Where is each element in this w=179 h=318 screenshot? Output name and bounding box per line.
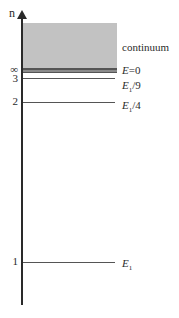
energy-value: /9 — [132, 79, 141, 91]
energy-label-n1: E1 — [122, 257, 132, 272]
energy-label-zero: E=0 — [122, 64, 140, 76]
energy-symbol: E — [122, 79, 129, 91]
level-label-n1: 1 — [4, 255, 18, 267]
energy-label-n3: E1/9 — [122, 79, 141, 94]
energy-symbol: E — [122, 64, 129, 76]
energy-symbol: E — [122, 257, 129, 269]
continuum-label: continuum — [122, 41, 169, 53]
axis-label-n: n — [9, 6, 15, 21]
level-line-n1 — [23, 262, 115, 263]
level-label-n3: 3 — [4, 72, 18, 84]
energy-value: =0 — [129, 64, 141, 76]
level-line-n2 — [23, 102, 115, 103]
level-band-bottom — [23, 72, 117, 73]
level-label-n2: 2 — [4, 95, 18, 107]
energy-subscript: 1 — [129, 264, 133, 272]
energy-label-n2: E1/4 — [122, 99, 141, 114]
level-line-n3 — [23, 78, 115, 79]
continuum-region — [23, 23, 117, 68]
energy-symbol: E — [122, 99, 129, 111]
energy-value: /4 — [132, 99, 141, 111]
